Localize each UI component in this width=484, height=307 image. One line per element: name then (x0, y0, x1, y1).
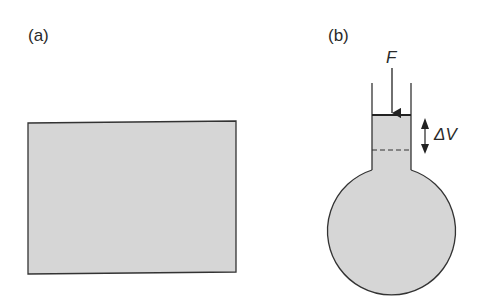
rectangular-block (28, 121, 236, 274)
arrow-up-head (421, 118, 429, 129)
panel-b-label: (b) (328, 26, 349, 45)
arrow-down-head (421, 144, 429, 154)
diagram: (a) (b) F ΔV (0, 0, 484, 307)
force-label: F (386, 48, 398, 67)
panel-a-label: (a) (28, 26, 49, 45)
volume-change-label: ΔV (433, 125, 458, 144)
